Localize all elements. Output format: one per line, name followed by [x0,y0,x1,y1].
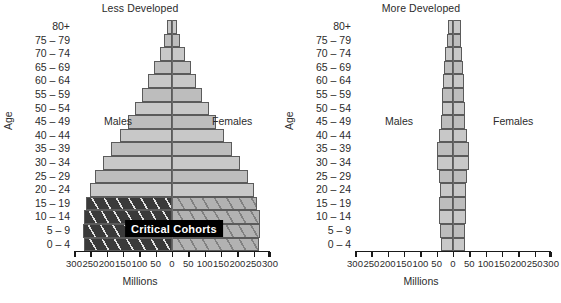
age-tick-label: 20 – 24 [14,183,70,197]
x-axis-tick [535,252,536,257]
bar-male [120,129,172,143]
x-axis-tick-label: 150 [494,258,510,269]
males-label-right: Males [385,115,413,127]
center-axis-line-right [453,20,454,251]
bar-male [439,197,453,211]
bar-female [172,142,232,156]
bar-female [453,210,466,224]
age-tick-label: 50 – 54 [295,102,351,116]
x-axis-tick [172,252,173,257]
age-tick-label: 15 – 19 [14,197,70,211]
age-tick-label: 80+ [295,20,351,34]
critical-cohorts-annotation: Critical Cohorts [125,220,223,237]
bar-female [453,74,464,88]
bar-female [453,115,465,129]
bar-male [84,238,172,252]
bar-female [453,156,469,170]
bar-male [439,170,453,184]
bar-male [437,142,453,156]
bar-male [154,61,172,75]
bar-female [172,20,177,34]
age-tick-label: 20 – 24 [295,183,351,197]
age-tick-label: 15 – 19 [295,197,351,211]
bar-female [172,102,209,116]
bar-female [453,197,466,211]
bar-male [86,197,172,211]
bar-male [443,74,453,88]
bar-female [172,47,185,61]
plot-area-right: Males Females [355,20,551,251]
bar-male [440,183,453,197]
bar-female [453,183,466,197]
age-tick-label: 60 – 64 [295,74,351,88]
age-tick-label: 0 – 4 [14,238,70,252]
age-tick-label: 65 – 69 [14,61,70,75]
x-axis-tick-label: 200 [229,258,245,269]
x-axis-tick [551,252,552,257]
bar-male [439,129,453,143]
age-tick-label: 60 – 64 [14,74,70,88]
bar-male [442,102,453,116]
age-tick-label: 50 – 54 [14,102,70,116]
bar-male [142,88,172,102]
age-tick-label: 25 – 29 [14,170,70,184]
x-axis-tick [437,252,438,257]
x-axis-tick [156,252,157,257]
bar-male [128,115,172,129]
x-axis-tick-label: 250 [527,258,543,269]
x-axis-tick [486,252,487,257]
bar-female [172,156,240,170]
bar-female [453,20,461,34]
bar-male [440,224,453,238]
x-tick-labels-right: 30025020015010050050100150200250300 [339,258,561,272]
bar-female [172,238,259,252]
bar-male [442,88,453,102]
age-tick-label: 5 – 9 [295,224,351,238]
bar-male [439,210,453,224]
age-tick-label: 10 – 14 [14,210,70,224]
x-axis-label-left: Millions [0,275,280,287]
bar-female [172,170,248,184]
age-tick-label: 45 – 49 [14,115,70,129]
age-tick-label: 80+ [14,20,70,34]
chart-panel-less-developed: Less Developed Age 80+75 – 7970 – 7465 –… [0,0,280,303]
bar-male [148,74,172,88]
age-tick-label: 40 – 44 [295,129,351,143]
x-axis-tick-label: 250 [363,258,379,269]
bar-female [453,142,469,156]
x-axis-tick [404,252,405,257]
bar-female [172,197,257,211]
bar-female [453,88,464,102]
x-axis-tick-label: 100 [412,258,428,269]
age-tick-label: 75 – 79 [14,34,70,48]
age-tick-label: 40 – 44 [14,129,70,143]
age-tick-label: 35 – 39 [295,142,351,156]
x-axis-tick [205,252,206,257]
age-tick-label: 70 – 74 [14,47,70,61]
bar-female [172,183,254,197]
bar-female [172,129,224,143]
age-tick-label: 55 – 59 [295,88,351,102]
x-axis-tick-label: 250 [82,258,98,269]
age-tick-label: 30 – 34 [295,156,351,170]
x-axis-tick-label: 50 [464,258,475,269]
x-axis-tick-label: 300 [347,258,363,269]
age-tick-label: 45 – 49 [295,115,351,129]
bar-male [441,115,453,129]
chart-title-more-developed: More Developed [281,2,561,14]
x-axis-tick-label: 0 [169,258,174,269]
bar-female [453,238,465,252]
bar-female [453,34,461,48]
bar-female [453,224,465,238]
x-axis-tick [469,252,470,257]
plot-area-left: Males Females Critical Cohorts [74,20,270,251]
x-axis-tick-label: 0 [450,258,455,269]
x-axis-tick-label: 100 [131,258,147,269]
x-axis-tick [371,252,372,257]
x-axis-tick [107,252,108,257]
x-axis-tick-label: 50 [431,258,442,269]
bar-male [90,183,172,197]
x-axis-tick [74,252,75,257]
x-axis-tick [139,252,140,257]
bar-female [453,129,467,143]
